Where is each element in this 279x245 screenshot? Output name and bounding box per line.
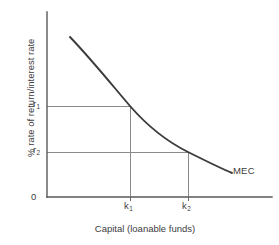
chart-canvas <box>0 0 279 245</box>
x-tick-label-k2-subscript: 2 <box>187 205 191 212</box>
x-tick-label-k2: k2 <box>182 201 191 211</box>
mec-curve <box>70 37 232 173</box>
x-tick-label-k1-subscript: 1 <box>129 205 133 212</box>
x-axis-label: Capital (loanable funds) <box>59 224 231 234</box>
origin-label: 0 <box>31 192 36 202</box>
y-tick-label-r2-subscript: 2 <box>36 149 40 156</box>
y-tick-label-r2: r2 <box>33 145 40 155</box>
mec-curve-figure: % rate of return/interest rate Capital (… <box>0 0 279 245</box>
x-tick-label-k1: k1 <box>124 201 133 211</box>
y-tick-label-r1: r1 <box>33 99 40 109</box>
mec-curve-label: MEC <box>233 166 255 176</box>
y-tick-label-r1-subscript: 1 <box>36 103 40 110</box>
